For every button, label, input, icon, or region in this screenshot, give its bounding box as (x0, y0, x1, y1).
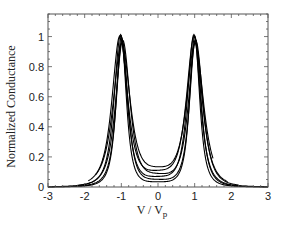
y-axis-title: Normalized Conductance (4, 45, 18, 167)
y-tick-label: 0.2 (29, 151, 44, 163)
x-tick-label: -2 (80, 190, 90, 202)
conductance-curve (48, 39, 268, 187)
x-axis-title: V / Vp (137, 203, 168, 219)
axes-frame (48, 14, 268, 187)
data-curves (48, 35, 268, 187)
conductance-chart: -3-2-10123 00.20.40.60.81 V / Vp Normali… (0, 0, 284, 226)
y-tick-label: 0.4 (29, 121, 44, 133)
y-tick-label: 1 (38, 31, 44, 43)
y-tick-label: 0.8 (29, 61, 44, 73)
x-tick-label: 1 (192, 190, 198, 202)
x-tick-labels: -3-2-10123 (43, 190, 271, 202)
x-tick-label: 0 (155, 190, 161, 202)
axis-ticks (48, 14, 268, 187)
x-tick-label: 3 (265, 190, 271, 202)
x-tick-label: -3 (43, 190, 53, 202)
x-tick-label: -1 (116, 190, 126, 202)
conductance-curve (48, 36, 268, 187)
y-tick-labels: 00.20.40.60.81 (29, 31, 44, 193)
y-tick-label: 0 (38, 181, 44, 193)
y-tick-label: 0.6 (29, 91, 44, 103)
x-tick-label: 2 (228, 190, 234, 202)
conductance-curve (48, 35, 268, 187)
